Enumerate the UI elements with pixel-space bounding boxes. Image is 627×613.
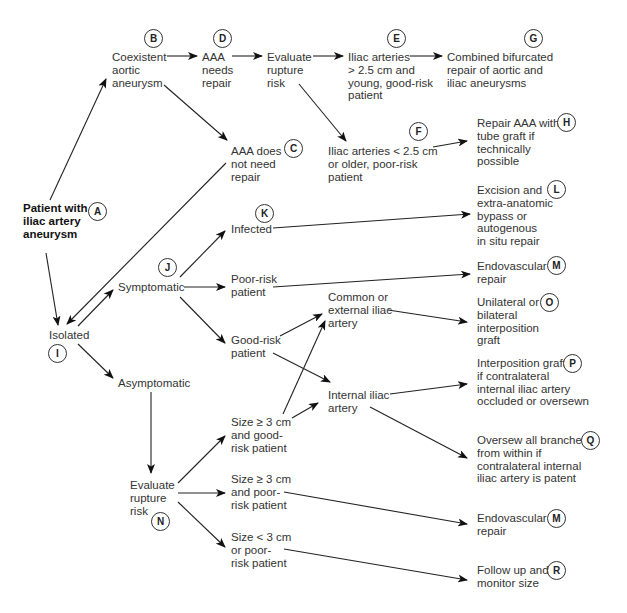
node-oversew-branches: Oversew all branches from within if cont…: [477, 434, 588, 485]
edge-common-o: [388, 310, 467, 322]
node-tube-graft-repair: Repair AAA with tube graft if technicall…: [477, 117, 559, 168]
node-interposition-graft: Unilateral or bilateral interposition gr…: [477, 296, 539, 347]
badge-a: A: [88, 202, 107, 221]
node-combined-bifurcated-repair: Combined bifurcated repair of aortic and…: [447, 51, 553, 89]
node-isolated: Isolated: [49, 329, 89, 342]
edge-good-risk-internal: [273, 353, 330, 382]
edge-poor-risk-m: [273, 274, 470, 287]
badge-l: L: [547, 180, 566, 199]
node-common-external-iliac: Common or external iliac artery: [328, 291, 392, 329]
edge-a-i: [46, 253, 58, 325]
node-coexistent-aortic-aneurysm: Coexistent aortic aneurysm: [112, 51, 166, 89]
edge-f-h: [433, 141, 467, 147]
badge-j: J: [158, 258, 177, 277]
node-internal-iliac: Internal iliac artery: [328, 389, 389, 415]
edge-c-i: [67, 163, 226, 324]
node-asymptomatic: Asymptomatic: [118, 377, 190, 390]
badge-n: N: [151, 512, 170, 531]
edge-i-asymptomatic: [78, 344, 113, 378]
node-endovascular-repair: Endovascular repair: [477, 260, 547, 286]
edge-infected-l: [273, 214, 470, 228]
edge-size-good-common: [283, 321, 325, 414]
badge-b: B: [144, 29, 163, 48]
edge-size-small-r: [284, 549, 467, 580]
node-patient-with-iliac-aneurysm: Patient with iliac artery aneurysm: [23, 202, 88, 240]
node-infected: Infected: [231, 223, 272, 236]
badge-o: O: [540, 293, 559, 312]
node-evaluate-rupture-risk-top: Evaluate rupture risk: [267, 51, 312, 89]
node-good-risk-patient: Good-risk patient: [231, 334, 281, 360]
edge-size-poor-m: [284, 492, 467, 524]
edge-b-c: [164, 85, 227, 140]
edge-size-good-internal: [292, 403, 318, 418]
edge-internal-q: [370, 407, 467, 458]
badge-i: I: [48, 344, 67, 363]
edge-a-b: [50, 79, 106, 200]
node-iliac-large-good-risk: Iliac arteries > 2.5 cm and young, good-…: [348, 51, 433, 102]
node-size-large-poor-risk: Size ≥ 3 cm and poor- risk patient: [231, 473, 291, 511]
badge-r: R: [547, 561, 566, 580]
badge-e: E: [387, 29, 406, 48]
node-follow-up: Follow up and monitor size: [477, 564, 549, 590]
badge-c: C: [284, 139, 303, 158]
node-iliac-small-poor-risk: Iliac arteries < 2.5 cm or older, poor-r…: [328, 145, 438, 183]
badge-p: P: [563, 354, 582, 373]
node-endovascular-repair-2: Endovascular repair: [477, 512, 547, 538]
badge-m-2: M: [547, 509, 566, 528]
edge-evaluate-size-small: [178, 502, 225, 547]
node-size-small-or-poor-risk: Size < 3 cm or poor- risk patient: [231, 531, 291, 569]
edge-evaluate-size-good: [178, 436, 225, 483]
badge-f: F: [409, 122, 428, 141]
badge-g: G: [524, 29, 543, 48]
badge-m: M: [547, 256, 566, 275]
node-poor-risk-patient: Poor-risk patient: [231, 273, 277, 299]
edge-good-risk-common: [280, 314, 322, 336]
badge-q: Q: [581, 431, 600, 450]
node-evaluate-rupture-risk-bottom: Evaluate rupture risk: [130, 479, 175, 517]
edge-internal-p: [390, 384, 467, 394]
node-excision-bypass: Excision and extra-anatomic bypass or au…: [477, 184, 553, 248]
edge-symptomatic-good-risk: [180, 297, 225, 343]
edge-symptomatic-infected: [180, 231, 225, 277]
badge-h: H: [557, 113, 576, 132]
node-aaa-needs-repair: AAA needs repair: [202, 51, 233, 89]
node-size-large-good-risk: Size ≥ 3 cm and good- risk patient: [231, 416, 291, 454]
badge-k: K: [255, 204, 274, 223]
node-aaa-no-repair: AAA does not need repair: [231, 145, 282, 183]
node-symptomatic: Symptomatic: [118, 281, 184, 294]
edge-evaluate-f: [299, 84, 346, 141]
badge-d: D: [213, 29, 232, 48]
